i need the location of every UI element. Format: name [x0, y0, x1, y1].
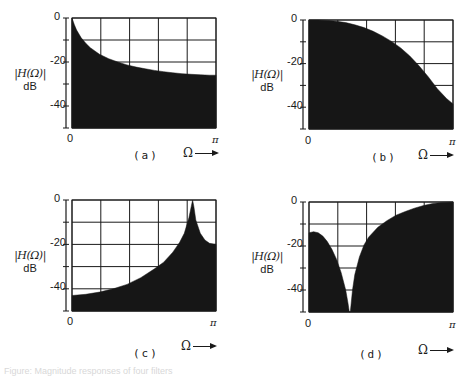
- xtick-pi: π: [210, 317, 217, 328]
- x-axis-label: Ω: [418, 343, 452, 357]
- ytick-neg20: -20: [36, 236, 66, 248]
- ytick-neg20: -20: [273, 237, 303, 249]
- ytick-neg40: -40: [36, 98, 66, 110]
- ytick-neg20: -20: [36, 54, 66, 66]
- xtick-pi: π: [212, 134, 219, 145]
- magnitude-response-area: [309, 202, 453, 312]
- y-axis-label-unit: dB: [260, 263, 273, 275]
- panel-c: 0 -20 -40 |H(Ω)| dB 0 π (c) Ω: [0, 170, 235, 340]
- xtick-zero: 0: [305, 317, 311, 329]
- ytick-0: 0: [30, 192, 60, 204]
- magnitude-response-area: [309, 20, 453, 129]
- xtick-pi: π: [449, 319, 456, 330]
- panel-label-d: (d): [359, 348, 385, 361]
- panel-a: 0 -20 -40 |H(Ω)| dB 0 π (a) Ω: [0, 0, 235, 170]
- panel-b: 0 -20 -40 |H(Ω)| dB 0 π (b) Ω: [235, 0, 470, 170]
- ytick-0: 0: [267, 194, 297, 206]
- arrow-right-icon: [430, 350, 452, 351]
- omega-symbol: Ω: [183, 146, 193, 160]
- y-axis-label-magnitude: |H(Ω)|: [10, 250, 50, 262]
- ytick-neg20: -20: [273, 55, 303, 67]
- arrow-right-icon: [430, 155, 452, 156]
- y-axis-label: |H(Ω)| dB: [10, 250, 50, 274]
- x-axis-label: Ω: [183, 146, 217, 160]
- y-axis-label-unit: dB: [260, 81, 273, 93]
- xtick-pi: π: [449, 136, 456, 147]
- y-axis-label: |H(Ω)| dB: [247, 69, 287, 93]
- arrow-right-icon: [193, 346, 215, 347]
- ytick-neg40: -40: [36, 280, 66, 292]
- y-axis-label: |H(Ω)| dB: [247, 251, 287, 275]
- ytick-0: 0: [267, 12, 297, 24]
- omega-symbol: Ω: [418, 148, 428, 162]
- x-axis-label: Ω: [418, 148, 452, 162]
- ytick-0: 0: [30, 10, 60, 22]
- xtick-zero: 0: [305, 134, 311, 146]
- y-axis-label-magnitude: |H(Ω)|: [247, 69, 287, 81]
- y-axis-label: |H(Ω)| dB: [10, 68, 50, 92]
- ytick-neg40: -40: [273, 99, 303, 111]
- ytick-neg40: -40: [273, 282, 303, 294]
- panel-label-a: (a): [133, 149, 159, 162]
- figure-caption: Figure: Magnitude responses of four filt…: [4, 366, 173, 376]
- magnitude-response-area: [72, 200, 216, 311]
- panel-label-c: (c): [133, 347, 159, 360]
- xtick-zero: 0: [67, 132, 73, 144]
- magnitude-response-area: [72, 18, 216, 128]
- omega-symbol: Ω: [418, 343, 428, 357]
- y-axis-label-unit: dB: [23, 262, 36, 274]
- arrow-right-icon: [195, 153, 217, 154]
- y-axis-label-unit: dB: [23, 80, 36, 92]
- panel-d: 0 -20 -40 |H(Ω)| dB 0 π (d) Ω: [235, 170, 470, 340]
- panel-label-b: (b): [371, 151, 397, 164]
- x-axis-label: Ω: [181, 339, 215, 353]
- y-axis-label-magnitude: |H(Ω)|: [247, 251, 287, 263]
- omega-symbol: Ω: [181, 339, 191, 353]
- y-axis-label-magnitude: |H(Ω)|: [10, 68, 50, 80]
- xtick-zero: 0: [67, 315, 73, 327]
